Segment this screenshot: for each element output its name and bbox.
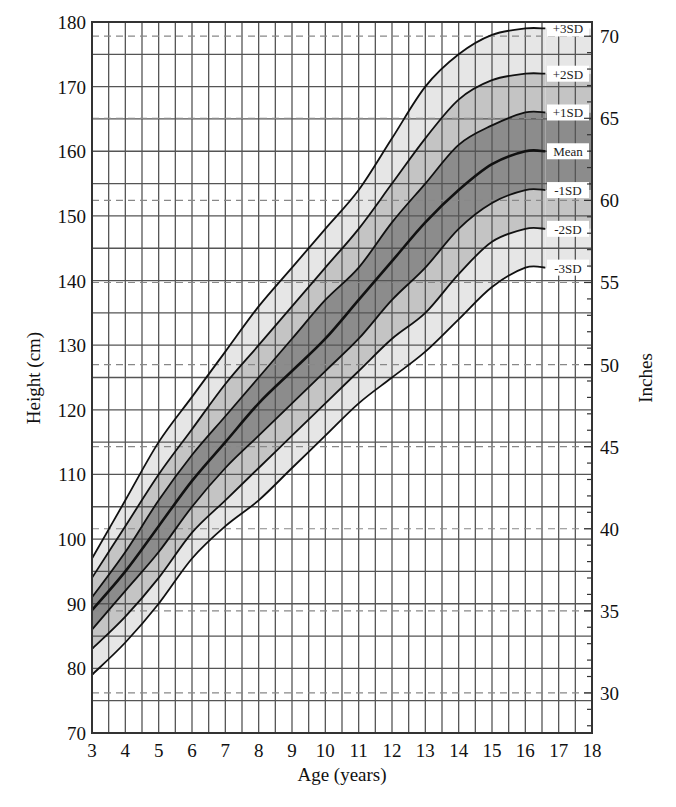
y-tick-label: 120 [58, 400, 87, 421]
inch-tick-label: 60 [600, 190, 619, 211]
y-axis-title: Height (cm) [23, 332, 45, 424]
y-tick-label: 100 [58, 529, 87, 550]
sd-label: +2SD [553, 67, 583, 82]
x-tick-label: 15 [483, 740, 502, 761]
inch-tick-label: 40 [600, 519, 619, 540]
inch-tick-label: 30 [600, 683, 619, 704]
growth-chart: +3SD+2SD+1SDMean-1SD-2SD-3SD 70809010011… [0, 0, 676, 807]
inch-tick-label: 45 [600, 437, 619, 458]
inch-tick-label: 70 [600, 26, 619, 47]
x-tick-label: 3 [87, 740, 97, 761]
y-axis-right-title: Inches [635, 353, 656, 403]
y-tick-label: 170 [58, 77, 87, 98]
x-axis-title: Age (years) [297, 764, 386, 786]
x-tick-label: 7 [221, 740, 231, 761]
y-tick-label: 140 [58, 271, 87, 292]
x-tick-label: 9 [287, 740, 297, 761]
y-tick-label: 150 [58, 206, 87, 227]
x-tick-label: 12 [383, 740, 402, 761]
x-tick-label: 6 [187, 740, 197, 761]
x-tick-label: 10 [316, 740, 335, 761]
sd-label: +1SD [553, 105, 583, 120]
x-tick-label: 18 [583, 740, 602, 761]
inch-tick-label: 50 [600, 355, 619, 376]
sd-label: -3SD [554, 261, 581, 276]
sd-label: +3SD [553, 21, 583, 36]
inch-tick-label: 65 [600, 108, 619, 129]
x-tick-label: 4 [121, 740, 131, 761]
sd-label: -2SD [554, 222, 581, 237]
x-tick-label: 8 [254, 740, 264, 761]
y-tick-label: 70 [67, 723, 86, 744]
y-tick-label: 160 [58, 141, 87, 162]
x-tick-label: 5 [154, 740, 164, 761]
y-tick-label: 110 [58, 464, 86, 485]
y-tick-label: 80 [67, 658, 86, 679]
inch-tick-label: 55 [600, 272, 619, 293]
sd-label: -1SD [554, 183, 581, 198]
x-tick-label: 14 [449, 740, 469, 761]
inch-tick-label: 35 [600, 601, 619, 622]
x-tick-label: 16 [516, 740, 535, 761]
x-tick-label: 17 [549, 740, 568, 761]
y-tick-label: 90 [67, 594, 86, 615]
sd-label: Mean [553, 144, 583, 159]
x-tick-label: 11 [350, 740, 368, 761]
y-tick-label: 180 [58, 12, 87, 33]
y-tick-label: 130 [58, 335, 87, 356]
x-tick-label: 13 [416, 740, 435, 761]
